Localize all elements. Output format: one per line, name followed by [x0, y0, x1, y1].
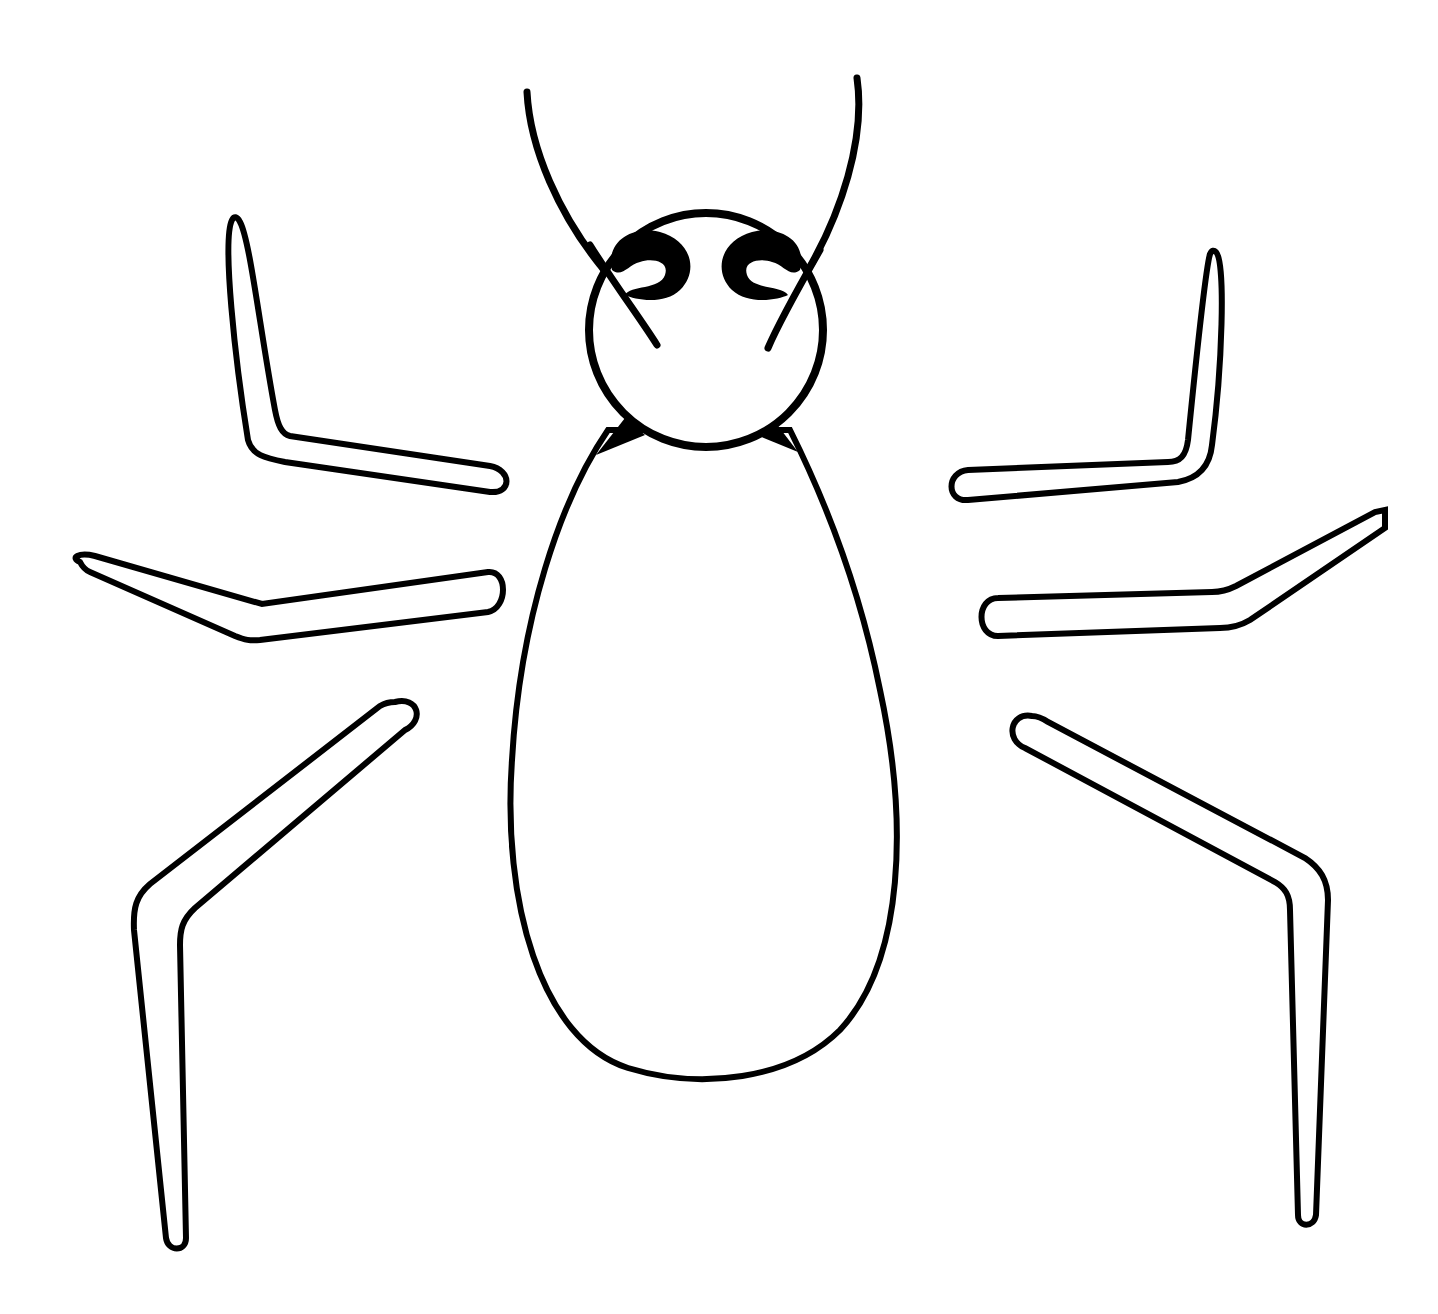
- body-teardrop: [510, 418, 896, 1079]
- leg-right-1: [952, 251, 1222, 500]
- spider-drawing: [0, 0, 1438, 1314]
- leg-left-1: [228, 217, 506, 492]
- leg-left-3: [134, 701, 417, 1248]
- leg-right-3: [1012, 716, 1328, 1225]
- leg-left-2: [76, 555, 503, 641]
- leg-right-2: [982, 510, 1386, 636]
